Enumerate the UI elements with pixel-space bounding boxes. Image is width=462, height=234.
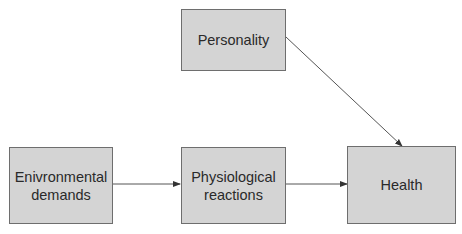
node-physiological-reactions-label: Physiological reactions [182,168,285,204]
node-personality-label: Personality [198,31,270,49]
edge-personality-to-health [286,37,402,146]
node-health-label: Health [381,176,423,194]
node-physiological-reactions: Physiological reactions [181,147,286,224]
node-personality: Personality [181,9,286,71]
node-environmental-demands-label: Enivronmental demands [10,168,112,204]
node-environmental-demands: Enivronmental demands [9,147,113,224]
node-health: Health [347,146,456,224]
